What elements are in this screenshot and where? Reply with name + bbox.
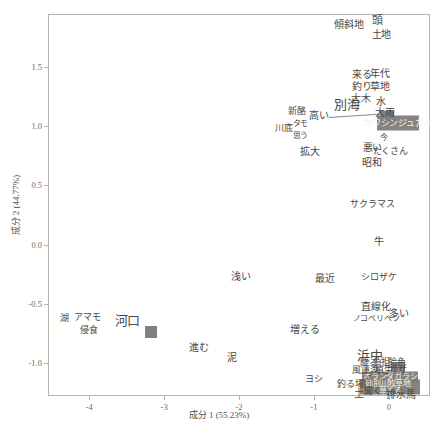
scatter-marker[interactable] [145, 326, 157, 338]
scatter-plot-figure: 成分 1 (55.23%) 成分 2 (44.77%) -4-3-2-101.5… [0, 0, 438, 429]
y-axis-tick [44, 363, 48, 364]
word-label: アマモ [74, 312, 100, 321]
x-axis-tick-label: -3 [161, 402, 168, 412]
x-axis-tick-label: -1 [310, 402, 317, 412]
word-label: たくさん [373, 147, 408, 156]
word-label: 土地 [372, 30, 392, 40]
word-label: 多い [389, 309, 409, 319]
word-label: 頭 [372, 14, 383, 25]
word-label: 年代 [370, 69, 390, 79]
y-axis-tick [44, 185, 48, 186]
y-axis-tick [44, 126, 48, 127]
word-label: 大木 [351, 94, 371, 104]
word-label: 昭和 [362, 158, 382, 168]
word-label: 最近 [315, 274, 335, 284]
word-label: ヨシ [305, 375, 323, 384]
y-axis-tick-label: 1.0 [18, 121, 42, 131]
word-label: カワシンジュガイ [363, 118, 432, 127]
y-axis-tick [44, 67, 48, 68]
word-label: タモ [293, 120, 309, 128]
y-axis-tick-label: 0.0 [18, 240, 42, 250]
word-label: 浅い [231, 272, 251, 282]
x-axis-tick [314, 396, 315, 400]
word-label: サクラマス [350, 200, 394, 209]
word-label: 侵食 [80, 325, 98, 334]
word-label: 直線化 [361, 302, 390, 312]
word-label: 新酪 [288, 106, 306, 115]
y-axis-tick [44, 245, 48, 246]
word-label: 牛 [374, 237, 384, 247]
word-label: 釣り [352, 82, 372, 92]
word-label: 排水 [386, 390, 406, 400]
word-label: 泥 [227, 353, 237, 363]
word-label: 川底 [275, 123, 293, 132]
y-axis-tick-label: -0.5 [18, 299, 42, 309]
word-label: 土 [354, 389, 364, 399]
x-axis-tick [239, 396, 240, 400]
word-label: 湖 [60, 313, 69, 322]
x-axis-tick-label: -4 [86, 402, 93, 412]
word-label: 増える [290, 325, 319, 335]
x-axis-tick-label: 0 [387, 402, 391, 412]
word-label: 来る [352, 70, 372, 80]
word-label: 馬 [406, 390, 416, 400]
y-axis-tick-label: 0.5 [18, 180, 42, 190]
x-axis-tick-label: -2 [235, 402, 242, 412]
y-axis-tick [44, 304, 48, 305]
site-label: 河口 [115, 314, 141, 327]
word-label: 水 [376, 97, 386, 107]
word-label: 高い [309, 111, 329, 121]
word-label: 進む [189, 343, 209, 353]
word-label: 拡大 [300, 147, 320, 157]
y-axis-tick-label: 1.5 [18, 62, 42, 72]
word-label: 思う [293, 132, 309, 140]
word-label: 草地 [370, 82, 390, 92]
word-label: シロザケ [361, 272, 396, 281]
y-axis-tick-label: -1.0 [18, 358, 42, 368]
x-axis-tick [164, 396, 165, 400]
x-axis-tick [89, 396, 90, 400]
word-label: 傾斜地 [334, 20, 363, 30]
